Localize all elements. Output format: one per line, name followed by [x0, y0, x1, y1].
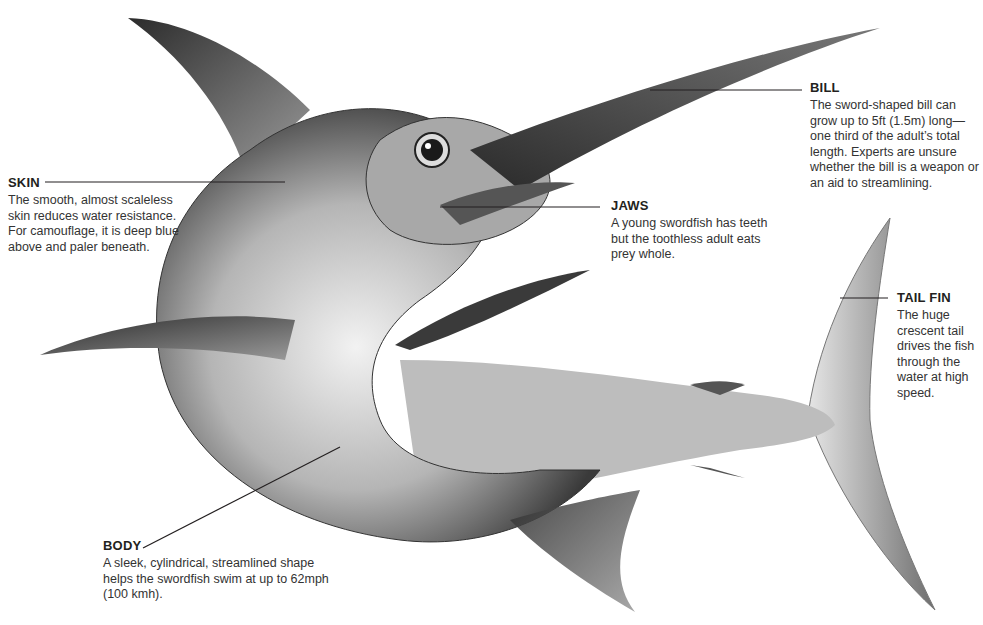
body-description: A sleek, cylindrical, streamlined shape … [103, 556, 333, 603]
bill-label: BILL The sword-shaped bill can grow up t… [810, 80, 983, 191]
tail-fin-title: TAIL FIN [897, 290, 983, 306]
jaws-title: JAWS [611, 198, 781, 214]
bill-title: BILL [810, 80, 983, 96]
skin-description: The smooth, almost scaleless skin reduce… [8, 193, 183, 255]
skin-title: SKIN [8, 175, 183, 191]
tail-fin-label: TAIL FIN The huge crescent tail drives t… [897, 290, 983, 401]
jaws-description: A young swordfish has teeth but the toot… [611, 216, 781, 263]
bill-description: The sword-shaped bill can grow up to 5ft… [810, 98, 983, 191]
body-title: BODY [103, 538, 333, 554]
tail-fin [808, 218, 935, 610]
jaws-label: JAWS A young swordfish has teeth but the… [611, 198, 781, 263]
skin-label: SKIN The smooth, almost scaleless skin r… [8, 175, 183, 255]
body-label: BODY A sleek, cylindrical, streamlined s… [103, 538, 333, 603]
tail-fin-description: The huge crescent tail drives the fish t… [897, 308, 983, 401]
